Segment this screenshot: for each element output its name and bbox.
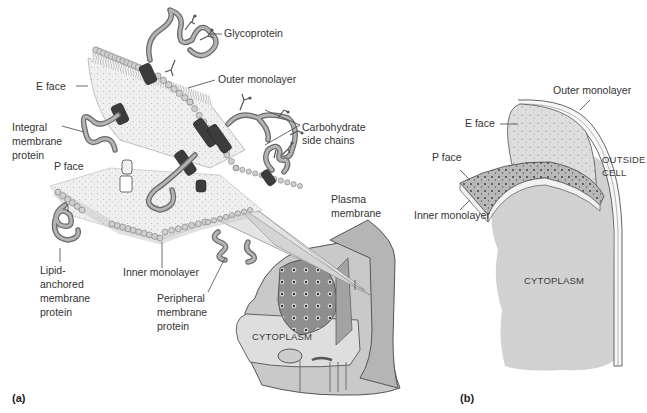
lipid-head [187,99,193,105]
lipid-head [166,82,172,88]
panel-label-b: (b) [460,392,474,404]
label-outer-monolayer: Outer monolayer [218,73,297,85]
panel-label-a: (a) [12,392,26,404]
lipid-head [278,178,283,183]
label-b-cytoplasm: CYTOPLASM [524,275,584,286]
lipid-head [241,209,246,214]
lipid-head [157,235,163,241]
label-carb-1: Carbohydrate [302,121,366,133]
lipid-head [285,180,290,185]
label-lipid-3: membrane [40,292,90,304]
lipid-head [228,158,234,164]
lipid-head [235,211,240,216]
label-peripheral-2: membrane [157,306,207,318]
label-peripheral-1: Peripheral [157,292,205,304]
lipid-head [175,226,181,232]
lipid-head [182,224,188,230]
peripheral-membrane-protein [214,232,254,262]
label-plasma-2: membrane [331,207,381,219]
label-lipid-1: Lipid- [40,264,66,276]
label-b-p-face: P face [432,151,462,163]
lipid-head [217,216,222,221]
lipid-head [247,207,252,212]
lipid-head [192,106,198,112]
lipid-head [79,207,85,213]
lipid-head [291,182,296,187]
label-plasma-1: Plasma [331,193,366,205]
lipid-head [171,86,177,92]
lipid-head [297,183,302,188]
lipid-head [195,221,201,227]
label-lipid-4: protein [40,306,72,318]
membrane-figure: Glycoprotein E face Outer monolayer Inte… [0,0,647,413]
vesicle [278,349,302,363]
lipid-head [223,214,228,219]
lipid-head [169,227,175,233]
lipid-head [146,232,152,238]
label-integral-3: protein [12,149,44,161]
lipid-head [189,222,195,228]
label-e-face: E face [36,80,66,92]
label-b-outside-1: OUTSIDE [602,154,646,165]
lipid-head [160,77,166,83]
lipid-head [240,167,245,172]
label-b-inner-monolayer: Inner monolayer [414,209,490,221]
lipid-head [162,229,168,235]
label-glycoprotein: Glycoprotein [224,27,283,39]
panel-b: Outer monolayer E face P face OUTSIDE CE… [414,84,646,404]
lipid-head [182,95,188,101]
lipid-head [246,169,251,174]
lipid-head [130,227,136,233]
panel-a: Glycoprotein E face Outer monolayer Inte… [12,10,400,404]
lipid-head [196,112,202,118]
lipid-head [205,219,210,224]
label-b-outside-2: CELL [602,167,627,178]
label-integral-1: Integral [12,121,47,133]
lipid-head [233,165,238,170]
lipid-head [253,171,258,176]
label-p-face: P face [54,160,84,172]
p-face-sheet [50,168,262,240]
label-lipid-2: anchored [40,278,84,290]
label-b-e-face: E face [465,117,495,129]
cell-cutaway [236,220,400,395]
label-integral-2: membrane [12,135,62,147]
lipid-head [229,213,234,218]
label-inner-monolayer: Inner monolayer [123,266,199,278]
label-cytoplasm-a: CYTOPLASM [252,331,312,342]
label-peripheral-3: protein [157,320,189,332]
label-b-outer-monolayer: Outer monolayer [553,84,632,96]
lipid-head [176,90,182,96]
lipid-head [114,223,120,229]
label-carb-2: side chains [302,134,355,146]
lipid-head [211,218,216,223]
glycoprotein [149,10,216,60]
